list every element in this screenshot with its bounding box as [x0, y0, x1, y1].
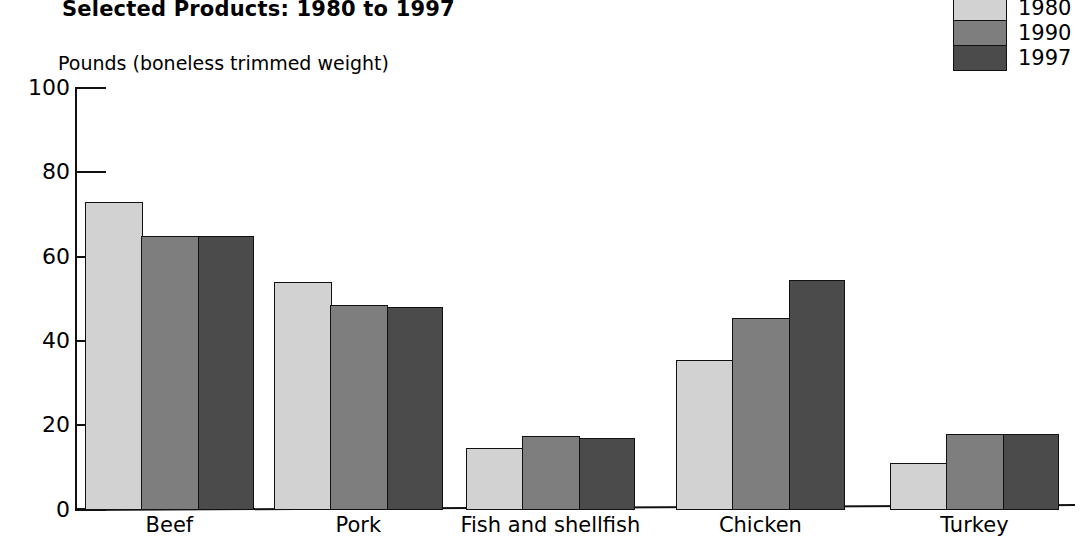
category-label: Chicken [719, 513, 802, 537]
category-label: Beef [146, 513, 194, 537]
bar [274, 282, 332, 510]
category-label: Turkey [940, 513, 1008, 537]
bar-chart-figure: Selected Products: 1980 to 1997 Pounds (… [0, 0, 1084, 539]
category-label: Fish and shellfish [460, 513, 640, 537]
bar [946, 434, 1004, 510]
bar [522, 436, 580, 510]
bar [330, 305, 388, 509]
bar [198, 236, 254, 510]
bar [85, 202, 143, 510]
bar [1003, 434, 1059, 510]
bar [789, 280, 845, 510]
bar [732, 318, 790, 510]
category-label: Pork [336, 513, 382, 537]
bar [676, 360, 734, 510]
bar [890, 463, 948, 509]
bar [579, 438, 635, 510]
bar [141, 236, 199, 510]
bar [387, 307, 443, 509]
bars-layer [0, 0, 1084, 511]
bar [466, 448, 524, 509]
plot-area: 020406080100 BeefPorkFish and shellfishC… [0, 0, 1084, 539]
